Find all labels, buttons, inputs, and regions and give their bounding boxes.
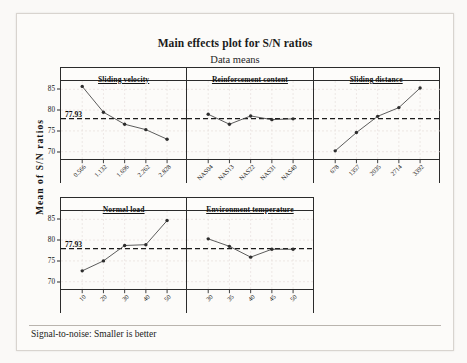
data-point <box>333 149 336 152</box>
y-tick-value: 70 <box>48 148 55 156</box>
data-point <box>397 106 400 109</box>
x-tick-label: 2.262 <box>136 163 151 178</box>
data-point <box>144 243 147 246</box>
data-point <box>144 128 147 131</box>
series-plot <box>187 81 314 160</box>
y-tick-value: 75 <box>48 127 55 135</box>
x-tick-label: 50 <box>163 293 172 302</box>
y-tick-value: 75 <box>48 257 55 265</box>
panel-reinforcement-content: Reinforcement contentNAS04NAS13NAS22NAS3… <box>186 67 313 183</box>
x-axis: 0.5661.1321.6962.2622.828 <box>61 160 186 183</box>
x-tick-label: 2035 <box>368 163 382 177</box>
data-point <box>165 138 168 141</box>
x-tick-label: NAS31 <box>259 163 278 182</box>
panel-sliding-distance: Sliding distance6781357203527143392 <box>313 67 440 183</box>
x-axis: 3035404550 <box>187 290 312 313</box>
reference-line-value: 77.93 <box>65 110 82 119</box>
y-axis-tick-label: 75 <box>48 257 57 265</box>
data-point <box>207 113 210 116</box>
panel-environment-temperature: Environment temperature3035404550 <box>186 197 313 313</box>
panel-header: Normal load <box>61 197 186 211</box>
panel-sliding-velocity: Sliding velocity77.930.5661.1321.6962.26… <box>60 67 187 183</box>
y-axis-label: Mean of S/N ratios <box>35 92 45 242</box>
plot-area: 77.93 <box>61 211 186 290</box>
data-point <box>418 86 421 89</box>
series-plot <box>314 81 441 160</box>
data-point <box>123 123 126 126</box>
x-tick-label: NAS04 <box>195 163 214 182</box>
x-tick-label: 1.132 <box>93 163 108 178</box>
chart-subtitle: Data means <box>17 54 453 65</box>
series-plot <box>187 211 314 290</box>
x-tick-label: 45 <box>268 293 277 302</box>
data-point <box>228 245 231 248</box>
panel-header: Sliding velocity <box>61 67 186 81</box>
data-point <box>123 244 126 247</box>
panel-normal-load: Normal load77.931020304050 <box>60 197 187 313</box>
panel-grid: 70758085Sliding velocity77.930.5661.1321… <box>60 67 442 319</box>
page-title: Main effects plot for S/N ratios <box>17 37 453 49</box>
y-tick-value: 80 <box>48 106 55 114</box>
y-axis-tick-label: 70 <box>48 278 57 286</box>
x-tick-label: 3392 <box>411 163 425 177</box>
footer-divider <box>29 325 441 326</box>
x-axis: NAS04NAS13NAS22NAS31NAS40 <box>187 160 312 183</box>
x-tick-label: NAS40 <box>280 163 299 182</box>
x-tick-label: 1.696 <box>114 163 129 178</box>
x-tick-label: 0.566 <box>72 163 87 178</box>
data-point <box>249 255 252 258</box>
data-point <box>270 248 273 251</box>
x-tick-label: 678 <box>328 163 340 175</box>
x-tick-label: 50 <box>289 293 298 302</box>
data-point <box>228 123 231 126</box>
chart-canvas: Main effects plot for S/N ratios Data me… <box>16 13 454 351</box>
data-point <box>207 237 210 240</box>
data-point <box>270 118 273 121</box>
y-tick-value: 70 <box>48 278 55 286</box>
panel-row-bottom: 70758085Normal load77.931020304050Enviro… <box>60 197 442 313</box>
x-tick-label: 30 <box>120 293 129 302</box>
x-tick-label: NAS22 <box>237 163 256 182</box>
x-tick-label: 1357 <box>347 163 361 177</box>
x-tick-label: 35 <box>225 293 234 302</box>
data-point <box>376 115 379 118</box>
x-axis: 6781357203527143392 <box>314 160 439 183</box>
panel-row-top: 70758085Sliding velocity77.930.5661.1321… <box>60 67 442 183</box>
signal-to-noise-note: Signal-to-noise: Smaller is better <box>31 329 156 339</box>
y-axis-tick-label: 85 <box>48 215 57 223</box>
series-plot <box>61 81 188 160</box>
x-tick-label: 2.828 <box>157 163 172 178</box>
x-tick-label: NAS13 <box>216 163 235 182</box>
x-tick-label: 40 <box>141 293 150 302</box>
x-tick-label: 10 <box>78 293 87 302</box>
chart-page: Main effects plot for S/N ratios Data me… <box>0 0 467 363</box>
data-point <box>292 248 295 251</box>
y-tick-value: 85 <box>48 85 55 93</box>
y-tick-value: 80 <box>48 236 55 244</box>
data-point <box>81 85 84 88</box>
y-axis-tick-label: 80 <box>48 236 57 244</box>
panel-header: Reinforcement content <box>187 67 312 81</box>
y-axis-tick-label: 80 <box>48 106 57 114</box>
x-tick-label: 2714 <box>389 163 403 177</box>
plot-area: 77.93 <box>61 81 186 160</box>
x-tick-label: 30 <box>204 293 213 302</box>
y-tick-value: 85 <box>48 215 55 223</box>
data-point <box>249 114 252 117</box>
y-axis-tick-label: 75 <box>48 127 57 135</box>
data-point <box>292 117 295 120</box>
y-axis-tick-label: 85 <box>48 85 57 93</box>
data-point <box>102 259 105 262</box>
plot-area <box>187 81 312 160</box>
x-tick-label: 40 <box>246 293 255 302</box>
data-point <box>102 110 105 113</box>
reference-line-value: 77.93 <box>65 240 82 249</box>
data-point <box>354 131 357 134</box>
panel-header: Environment temperature <box>187 197 312 211</box>
data-point <box>165 219 168 222</box>
x-tick-label: 20 <box>99 293 108 302</box>
plot-area <box>314 81 439 160</box>
panel-header: Sliding distance <box>314 67 439 81</box>
plot-area <box>187 211 312 290</box>
y-axis-tick-label: 70 <box>48 148 57 156</box>
